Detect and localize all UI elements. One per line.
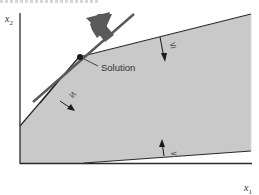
feasible-region: [20, 14, 251, 163]
lp-diagram: [0, 0, 259, 195]
solution-label: Solution: [101, 63, 135, 73]
y-axis-label: x2: [5, 14, 13, 28]
solution-point: [77, 54, 83, 60]
bottom-inequality-symbol: ≤: [170, 150, 178, 160]
x-axis-label: x1: [244, 183, 252, 195]
